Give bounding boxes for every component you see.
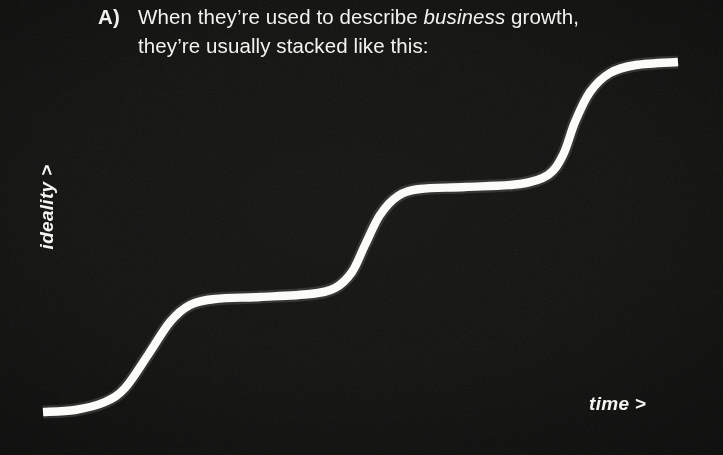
s-curve-chart [0,0,723,455]
slide-canvas: A) When they’re used to describe busines… [0,0,723,455]
